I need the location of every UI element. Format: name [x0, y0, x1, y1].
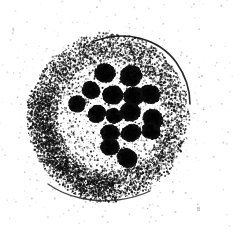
micrograph-figure: B: [0, 0, 233, 232]
micrograph-stipple-canvas: [0, 0, 233, 232]
corner-mark-label: B: [197, 207, 200, 212]
